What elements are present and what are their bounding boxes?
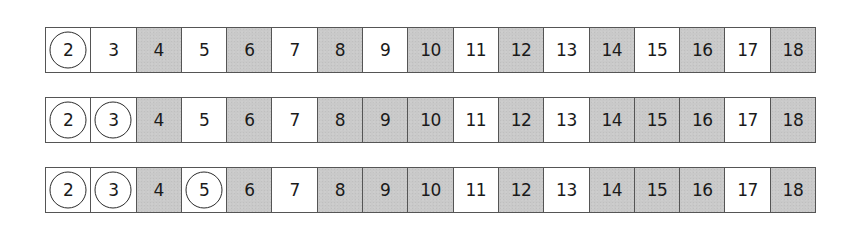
number-strip-row-1: 23456789101112131415161718	[45, 27, 816, 73]
cell-number: 13	[556, 40, 577, 60]
number-cell: 13	[544, 98, 589, 142]
number-cell: 11	[454, 98, 499, 142]
number-cell: 2	[46, 168, 91, 212]
cell-number: 15	[647, 110, 668, 130]
cell-number: 4	[154, 180, 164, 200]
number-cell: 3	[91, 28, 136, 72]
cell-number: 5	[199, 180, 209, 200]
number-cell: 2	[46, 28, 91, 72]
shaded-number-cell: 8	[318, 168, 363, 212]
number-cell: 5	[182, 168, 227, 212]
cell-number: 9	[380, 180, 390, 200]
cell-number: 7	[289, 180, 299, 200]
cell-number: 4	[154, 40, 164, 60]
cell-number: 7	[289, 40, 299, 60]
number-cell: 17	[725, 28, 770, 72]
cell-number: 12	[511, 110, 532, 130]
shaded-number-cell: 16	[680, 168, 725, 212]
cell-number: 3	[108, 110, 118, 130]
shaded-number-cell: 6	[227, 98, 272, 142]
shaded-number-cell: 12	[499, 28, 544, 72]
cell-number: 17	[737, 180, 758, 200]
shaded-number-cell: 8	[318, 98, 363, 142]
number-cell: 13	[544, 168, 589, 212]
shaded-number-cell: 14	[590, 98, 635, 142]
number-cell: 13	[544, 28, 589, 72]
cell-number: 17	[737, 40, 758, 60]
cell-number: 8	[335, 110, 345, 130]
cell-number: 9	[380, 110, 390, 130]
number-cell: 9	[363, 28, 408, 72]
cell-number: 3	[108, 180, 118, 200]
shaded-number-cell: 4	[137, 168, 182, 212]
shaded-number-cell: 10	[408, 168, 453, 212]
shaded-number-cell: 14	[590, 28, 635, 72]
shaded-number-cell: 9	[363, 98, 408, 142]
shaded-number-cell: 15	[635, 168, 680, 212]
shaded-number-cell: 8	[318, 28, 363, 72]
cell-number: 13	[556, 180, 577, 200]
cell-number: 18	[783, 180, 804, 200]
number-cell: 7	[272, 28, 317, 72]
shaded-number-cell: 18	[771, 28, 815, 72]
number-strip-row-3: 23456789101112131415161718	[45, 167, 816, 213]
cell-number: 5	[199, 40, 209, 60]
shaded-number-cell: 15	[635, 98, 680, 142]
number-cell: 15	[635, 28, 680, 72]
cell-number: 6	[244, 40, 254, 60]
cell-number: 11	[466, 180, 487, 200]
shaded-number-cell: 6	[227, 168, 272, 212]
cell-number: 18	[783, 110, 804, 130]
shaded-number-cell: 6	[227, 28, 272, 72]
shaded-number-cell: 12	[499, 98, 544, 142]
shaded-number-cell: 12	[499, 168, 544, 212]
cell-number: 5	[199, 110, 209, 130]
number-cell: 7	[272, 98, 317, 142]
cell-number: 10	[420, 180, 441, 200]
cell-number: 8	[335, 40, 345, 60]
number-cell: 11	[454, 168, 499, 212]
number-cell: 5	[182, 28, 227, 72]
cell-number: 16	[692, 40, 713, 60]
number-cell: 2	[46, 98, 91, 142]
number-cell: 3	[91, 168, 136, 212]
cell-number: 2	[63, 40, 73, 60]
cell-number: 16	[692, 110, 713, 130]
shaded-number-cell: 18	[771, 98, 815, 142]
cell-number: 4	[154, 110, 164, 130]
number-cell: 17	[725, 98, 770, 142]
number-cell: 5	[182, 98, 227, 142]
shaded-number-cell: 10	[408, 28, 453, 72]
cell-number: 6	[244, 110, 254, 130]
shaded-number-cell: 4	[137, 28, 182, 72]
cell-number: 15	[647, 40, 668, 60]
number-cell: 3	[91, 98, 136, 142]
cell-number: 11	[466, 40, 487, 60]
shaded-number-cell: 4	[137, 98, 182, 142]
shaded-number-cell: 16	[680, 98, 725, 142]
number-cell: 17	[725, 168, 770, 212]
cell-number: 7	[289, 110, 299, 130]
shaded-number-cell: 18	[771, 168, 815, 212]
cell-number: 14	[601, 110, 622, 130]
cell-number: 2	[63, 180, 73, 200]
cell-number: 6	[244, 180, 254, 200]
cell-number: 12	[511, 180, 532, 200]
cell-number: 15	[647, 180, 668, 200]
cell-number: 11	[466, 110, 487, 130]
cell-number: 13	[556, 110, 577, 130]
shaded-number-cell: 9	[363, 168, 408, 212]
cell-number: 18	[783, 40, 804, 60]
cell-number: 3	[108, 40, 118, 60]
cell-number: 17	[737, 110, 758, 130]
cell-number: 8	[335, 180, 345, 200]
cell-number: 14	[601, 40, 622, 60]
cell-number: 9	[380, 40, 390, 60]
cell-number: 16	[692, 180, 713, 200]
number-strip-row-2: 23456789101112131415161718	[45, 97, 816, 143]
shaded-number-cell: 16	[680, 28, 725, 72]
number-cell: 11	[454, 28, 499, 72]
cell-number: 12	[511, 40, 532, 60]
cell-number: 14	[601, 180, 622, 200]
number-cell: 7	[272, 168, 317, 212]
